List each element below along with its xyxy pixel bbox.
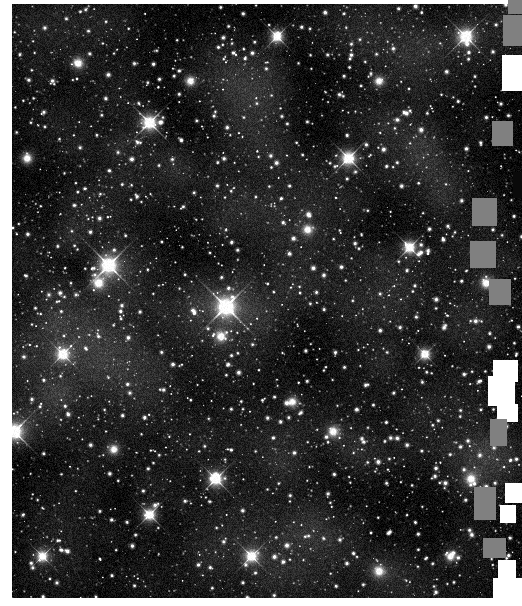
edge-artifact-white — [493, 578, 522, 606]
edge-artifact-white — [500, 505, 516, 523]
edge-artifact-gray — [490, 419, 507, 446]
edge-artifact-white — [505, 483, 522, 503]
edge-artifact-gray — [483, 538, 506, 558]
edge-artifact-gray — [474, 487, 496, 520]
image-viewer — [0, 0, 522, 606]
sky-canvas — [12, 4, 522, 598]
edge-artifact-gray — [508, 0, 522, 14]
edge-artifact-white — [502, 55, 522, 91]
edge-artifact-white — [498, 560, 516, 580]
edge-artifact-gray — [489, 279, 511, 305]
edge-artifact-gray — [503, 15, 522, 46]
edge-artifact-dark — [513, 172, 522, 198]
edge-artifact-gray — [492, 121, 513, 146]
edge-artifact-white — [488, 376, 515, 406]
edge-artifact-gray — [470, 241, 496, 268]
edge-artifact-gray — [472, 198, 497, 226]
star-field-image — [12, 4, 522, 598]
